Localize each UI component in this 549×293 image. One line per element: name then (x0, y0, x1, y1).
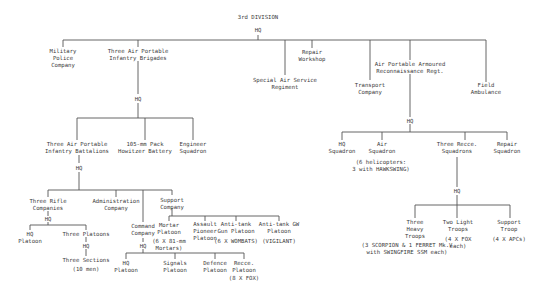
sections-note: (10 men) (73, 266, 100, 273)
node-field-ambulance: Field Ambulance (471, 82, 501, 96)
node-sas: Special Air Service Regiment (253, 77, 317, 91)
at-gw-note: (VIGILANT) (262, 238, 296, 245)
node-three-sections: Three Sections (62, 257, 109, 264)
node-defence-platoon: Defence Platoon (203, 260, 227, 274)
node-recce-squadrons: Three Recce. Squadrons (437, 141, 477, 155)
node-military-police: Military Police Company (50, 48, 77, 69)
platoon-hq: HQ (83, 243, 90, 250)
node-heavy-troops: Three Heavy Troops (405, 219, 425, 240)
node-brigades: Three Air Portable Infantry Brigades (108, 48, 169, 62)
node-transport: Transport Company (355, 82, 385, 96)
light-troops-note: (4 X FOX each) (445, 236, 472, 250)
command-hq: HQ (140, 243, 147, 250)
node-repair-workshop: Repair Workshop (299, 49, 326, 63)
mortar-note: (6 X 81-mm Mortars) (152, 238, 186, 252)
recce-platoon-note: (8 X FOX) (229, 275, 259, 282)
node-hq-platoon: HQ Platoon (18, 231, 42, 245)
heavy-troops-note: (3 SCORPION & 1 FERRET Mk.V with SWINGFI… (362, 242, 453, 256)
node-signals-platoon: Signals Platoon (163, 260, 187, 274)
node-recce-platoon: Recce. Platoon (232, 260, 256, 274)
node-command-company: Command Company (131, 223, 155, 237)
node-battalions: Three Air Portable Infantry Battalions (45, 141, 109, 155)
node-support-troop: Support Troop (497, 219, 521, 233)
division-title: 3rd DIVISION (238, 14, 278, 21)
node-hq-squadron: HQ Squadron (329, 141, 356, 155)
node-light-troops: Two Light Troops (443, 219, 473, 233)
node-rifle-companies: Three Rifle Companies (29, 198, 66, 212)
node-at-gw-platoon: Anti-tank GW Platoon (259, 221, 299, 235)
node-admin-company: Administration Company (92, 198, 139, 212)
node-air-squadron: Air Squadron (369, 141, 396, 155)
air-squadron-note: (6 helicopters: 3 with HAWKSWING) (352, 159, 409, 173)
node-at-gun-platoon: Anti-tank Gun Platoon (217, 221, 254, 235)
rifle-hq: HQ (45, 216, 52, 223)
node-engineer: Engineer Squadron (180, 141, 207, 155)
squadron-hq: HQ (454, 188, 461, 195)
node-cmd-hq-platoon: HQ Platoon (114, 260, 138, 274)
node-recce-regt: Air Portable Armoured Reconnaissance Reg… (375, 61, 446, 75)
node-mortar-platoon: Mortar Platoon (157, 222, 181, 236)
brigade-hq: HQ (135, 96, 142, 103)
node-three-platoons: Three Platoons (62, 231, 109, 238)
regt-hq: HQ (407, 118, 414, 125)
battalion-hq: HQ (76, 165, 83, 172)
division-hq: HQ (255, 27, 262, 34)
at-gun-note: (6 X WOMBATS) (214, 238, 258, 245)
node-support-company: Support Company (160, 197, 184, 211)
node-howitzer: 105-mm Pack Howitzer Battery (118, 141, 172, 155)
node-repair-squadron: Repair Squadron (494, 141, 521, 155)
support-troop-note: (4 X APCs) (492, 236, 526, 243)
